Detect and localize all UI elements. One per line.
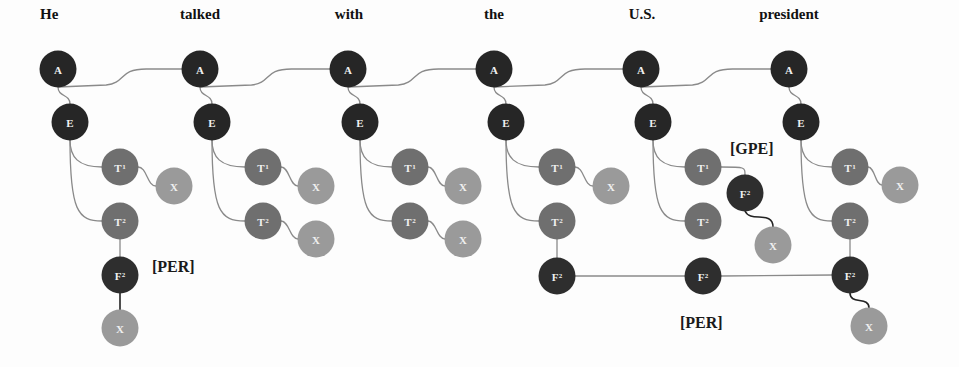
node-t2-with-superscript: 2 bbox=[412, 216, 416, 224]
node-a-president: A bbox=[771, 51, 808, 88]
node-x-t1-he-label: X bbox=[170, 180, 178, 192]
edge bbox=[212, 140, 245, 221]
node-a-talked-label: A bbox=[196, 63, 204, 75]
edge bbox=[138, 167, 156, 186]
node-a-with: A bbox=[330, 51, 367, 88]
node-t2-the: T2 bbox=[539, 203, 576, 240]
edge bbox=[789, 87, 801, 104]
node-f2-president-label: F bbox=[845, 269, 852, 281]
edge bbox=[281, 221, 298, 239]
node-e-president: E bbox=[783, 104, 820, 141]
node-t2-he-superscript: 2 bbox=[122, 216, 126, 224]
node-x-gpe-us: X bbox=[755, 227, 792, 264]
node-t2-president-superscript: 2 bbox=[852, 216, 856, 224]
edge bbox=[360, 140, 392, 221]
node-x-t2-with: X bbox=[445, 221, 482, 258]
node-x-t2-talked: X bbox=[298, 221, 335, 258]
entity-tag-gpe: [GPE] bbox=[730, 140, 774, 158]
node-x-t1-talked-label: X bbox=[312, 180, 320, 192]
node-e-us: E bbox=[635, 104, 672, 141]
node-e-he: E bbox=[52, 104, 89, 141]
node-f2-gpe-us: F2 bbox=[727, 175, 764, 212]
edge bbox=[494, 87, 506, 104]
node-a-talked: A bbox=[182, 51, 219, 88]
node-f2-president: F2 bbox=[832, 257, 869, 294]
node-f2-us-label: F bbox=[698, 270, 705, 282]
node-t2-talked-superscript: 2 bbox=[265, 216, 269, 224]
node-e-the-label: E bbox=[502, 116, 509, 128]
edge bbox=[801, 140, 832, 167]
word-us: U.S. bbox=[629, 6, 656, 23]
node-x-t1-he: X bbox=[156, 168, 193, 205]
node-t2-he-label: T bbox=[114, 215, 121, 227]
word-president: president bbox=[759, 6, 819, 23]
edge bbox=[745, 211, 773, 227]
node-a-he-label: A bbox=[54, 63, 62, 75]
node-f2-president-superscript: 2 bbox=[852, 270, 856, 278]
edge bbox=[575, 167, 593, 186]
node-a-president-label: A bbox=[785, 63, 793, 75]
node-t1-the-superscript: 1 bbox=[559, 162, 563, 170]
node-t1-with-superscript: 1 bbox=[412, 162, 416, 170]
node-a-us: A bbox=[623, 51, 660, 88]
node-t2-president: T2 bbox=[832, 203, 869, 240]
node-t1-the-label: T bbox=[551, 161, 558, 173]
node-x-t2-talked-label: X bbox=[312, 233, 320, 245]
node-t1-with: T1 bbox=[392, 149, 429, 186]
edge bbox=[653, 140, 685, 221]
node-x-t1-with-label: X bbox=[459, 180, 467, 192]
edge bbox=[70, 140, 102, 221]
node-t2-he: T2 bbox=[102, 203, 139, 240]
node-t1-talked: T1 bbox=[245, 149, 282, 186]
node-e-he-label: E bbox=[66, 116, 73, 128]
node-x-f2-president-label: X bbox=[865, 320, 873, 332]
edge bbox=[70, 140, 102, 167]
edge bbox=[641, 69, 771, 87]
node-t2-with: T2 bbox=[392, 203, 429, 240]
node-t1-us-label: T bbox=[697, 161, 704, 173]
edge bbox=[428, 221, 445, 239]
node-t1-president-superscript: 1 bbox=[852, 162, 856, 170]
node-x-t1-talked: X bbox=[298, 168, 335, 205]
edge bbox=[58, 69, 182, 87]
node-x-t1-president-label: X bbox=[896, 179, 904, 191]
diagram-canvas: AET1T2XF2XAET1T2XXAET1T2XXAET1T2XF2AET1T… bbox=[0, 0, 959, 367]
edge bbox=[348, 87, 360, 104]
node-e-the: E bbox=[488, 104, 525, 141]
node-a-the-label: A bbox=[490, 63, 498, 75]
node-t1-president: T1 bbox=[832, 149, 869, 186]
node-t2-talked: T2 bbox=[245, 203, 282, 240]
node-f2-gpe-us-label: F bbox=[740, 187, 747, 199]
node-a-with-label: A bbox=[344, 63, 352, 75]
node-t1-us: T1 bbox=[685, 149, 722, 186]
node-t1-with-label: T bbox=[404, 161, 411, 173]
node-t1-us-superscript: 1 bbox=[705, 162, 709, 170]
word-talked: talked bbox=[180, 6, 220, 23]
node-t1-he-superscript: 1 bbox=[122, 162, 126, 170]
node-f2-gpe-us-superscript: 2 bbox=[747, 188, 751, 196]
node-x-t1-with: X bbox=[445, 168, 482, 205]
node-f2-the: F2 bbox=[539, 258, 576, 295]
entity-tag-per: [PER] bbox=[680, 314, 723, 332]
node-x-f2-he: X bbox=[102, 310, 139, 347]
edge bbox=[653, 140, 685, 167]
node-f2-he-label: F bbox=[115, 269, 122, 281]
node-a-he: A bbox=[40, 51, 77, 88]
edge bbox=[200, 69, 330, 87]
node-e-talked-label: E bbox=[208, 116, 215, 128]
node-f2-the-label: F bbox=[552, 270, 559, 282]
edge bbox=[360, 140, 392, 167]
node-x-f2-president: X bbox=[851, 308, 888, 345]
node-a-us-label: A bbox=[637, 63, 645, 75]
node-x-gpe-us-label: X bbox=[769, 239, 777, 251]
node-x-t2-with-label: X bbox=[459, 233, 467, 245]
edge bbox=[200, 87, 212, 104]
edge bbox=[494, 69, 623, 87]
node-e-talked: E bbox=[194, 104, 231, 141]
edge bbox=[348, 69, 476, 87]
node-t1-talked-superscript: 1 bbox=[265, 162, 269, 170]
node-e-with: E bbox=[342, 104, 379, 141]
word-the: the bbox=[484, 6, 504, 23]
node-e-president-label: E bbox=[797, 116, 804, 128]
node-t1-he: T1 bbox=[102, 149, 139, 186]
